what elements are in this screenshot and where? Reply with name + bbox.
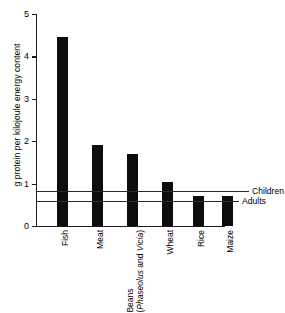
x-axis-line [36,226,225,227]
reference-label-children: Children [252,186,284,195]
x-label-meat: Meat [95,230,105,249]
x-label-beans-wrap: Beans(Phaseolus and Vicia) [127,230,143,296]
x-label-beans: Beans(Phaseolus and Vicia) [125,230,145,313]
x-label-wheat: Wheat [165,230,175,255]
genus-phaseolus: Phaseolus [135,270,145,310]
x-label-meat-wrap: Meat [92,230,108,296]
reference-line-adults [36,201,239,202]
y-tick-1 [32,184,37,185]
genus-vicia: Vicia [135,233,145,251]
x-label-beans-line1: Beans [125,289,135,313]
y-tick-label-2: 2 [24,137,29,146]
x-label-wheat-wrap: Wheat [162,230,178,296]
paren-open: ( [135,310,145,313]
y-tick-label-4: 4 [24,52,29,61]
bar-fish [57,37,68,226]
bar-wheat [162,182,173,227]
y-tick-0 [32,226,37,227]
plot-area: 5 4 3 2 1 0 Children Adults Fish Meat Be [36,14,225,226]
x-label-maize: Maize [225,230,235,253]
reference-label-adults: Adults [242,197,266,206]
y-tick-label-0: 0 [24,222,29,231]
conj-and: and [135,254,145,268]
y-tick-label-1: 1 [24,179,29,188]
y-tick-label-5: 5 [24,10,29,19]
reference-line-children [36,191,249,192]
bar-meat [92,145,103,226]
y-tick-5 [32,14,37,15]
x-label-rice-wrap: Rice [193,230,209,296]
y-axis-title: g protein per kilojoule energy content [12,20,22,210]
paren-close: ) [135,230,145,233]
y-axis-line [36,14,37,226]
x-label-rice: Rice [196,230,206,247]
y-tick-3 [32,99,37,100]
y-tick-label-3: 3 [24,94,29,103]
y-tick-4 [32,56,37,57]
y-tick-2 [32,141,37,142]
x-label-beans-line2: (Phaseolus and Vicia) [135,230,145,313]
x-label-fish: Fish [60,230,70,246]
x-label-maize-wrap: Maize [222,230,238,296]
x-label-fish-wrap: Fish [57,230,73,296]
